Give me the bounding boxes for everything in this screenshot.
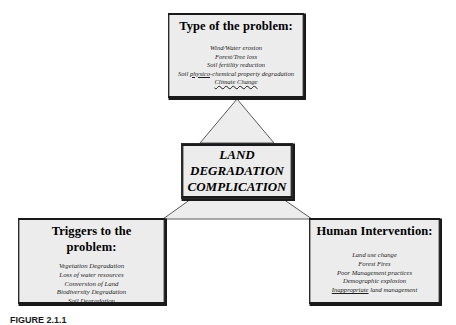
node-human-intervention-title: Human Intervention:: [310, 224, 439, 239]
node-type-of-problem-title: Type of the problem:: [169, 19, 303, 34]
list-item: Biodiversity Degradation: [19, 288, 164, 297]
list-item: Land use change: [310, 251, 439, 260]
node-triggers-to-the-problem[interactable]: Triggers to the problem: Vegetation Degr…: [18, 218, 165, 304]
node-human-intervention-list: Land use change Forest Fires Poor Manage…: [310, 251, 439, 295]
center-node-line-3: COMPLICATION: [188, 179, 287, 195]
list-item: Poor Management practices: [310, 269, 439, 278]
node-type-of-problem[interactable]: Type of the problem: Wind/Water erosion …: [168, 13, 304, 98]
list-item: Soil physico-chemical property degradati…: [169, 70, 303, 79]
node-triggers-list: Vegetation Degradation Loss of water res…: [19, 262, 164, 306]
figure-land-degradation-complication: Type of the problem: Wind/Water erosion …: [0, 0, 456, 325]
node-land-degradation-complication[interactable]: LAND DEGRADATION COMPLICATION: [181, 143, 293, 199]
list-item: Wind/Water erosion: [169, 44, 303, 53]
center-node-text: LAND DEGRADATION COMPLICATION: [188, 147, 287, 195]
list-item: Vegetation Degradation: [19, 262, 164, 271]
node-triggers-title: Triggers to the problem:: [19, 224, 164, 255]
list-item: Inappropriate land management: [310, 286, 439, 295]
list-item: Forest/Tree loss: [169, 53, 303, 62]
center-node-line-1: LAND: [188, 147, 287, 163]
list-item: Demographic explosion: [310, 277, 439, 286]
connector-triangle-top: [200, 99, 274, 143]
spellcheck-marked-word: physico: [190, 70, 210, 77]
center-node-line-2: DEGRADATION: [188, 163, 287, 179]
figure-caption: FIGURE 2.1.1: [10, 315, 67, 325]
node-triggers-title-line-1: Triggers to the: [19, 224, 164, 240]
list-item: Forest Fires: [310, 260, 439, 269]
list-item: Conversion of Land: [19, 280, 164, 289]
list-item: Soil Degradation: [19, 297, 164, 306]
list-item: Soil fertility reduction: [169, 61, 303, 70]
spellcheck-marked-word: Inappropriate: [332, 286, 369, 293]
spellcheck-marked-word: Climate Change: [214, 78, 257, 85]
node-human-intervention[interactable]: Human Intervention: Land use change Fore…: [309, 218, 440, 304]
list-item: Loss of water resources: [19, 271, 164, 280]
node-triggers-title-line-2: problem:: [19, 240, 164, 256]
list-item: Climate Change: [169, 78, 303, 87]
connector-funnel-bottom: [163, 199, 312, 219]
node-type-of-problem-list: Wind/Water erosion Forest/Tree loss Soil…: [169, 44, 303, 87]
